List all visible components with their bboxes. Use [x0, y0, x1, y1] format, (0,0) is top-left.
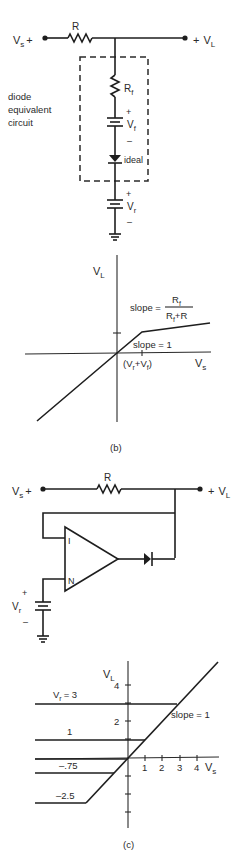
vr-1-label: 1	[67, 726, 72, 737]
y-axis-label: VL	[93, 265, 105, 280]
slope-lower-label: slope = 1	[133, 339, 172, 350]
resistor-rf-icon	[111, 75, 119, 97]
circuit-b: Vs+ R +VL diode equivalent circuit Rf + …	[8, 21, 216, 240]
vr-plus: +	[126, 189, 131, 199]
resistor-r-icon	[68, 34, 92, 42]
feedback-wire	[43, 513, 175, 538]
vr-plus: +	[22, 588, 27, 598]
vr-label: Vr	[12, 601, 22, 615]
vf-label: Vf	[127, 119, 137, 133]
resistor-r-label: R	[104, 472, 111, 483]
box-caption-line2: equivalent	[8, 104, 52, 115]
rf-label: Rf	[124, 83, 134, 97]
resistor-r-label: R	[72, 21, 79, 32]
vr-label: Vr	[127, 201, 137, 215]
transfer-curve-b	[37, 323, 210, 421]
vs-label: Vs+	[13, 34, 33, 49]
box-caption-line3: circuit	[8, 117, 33, 128]
opamp-noninverting-label: N	[68, 576, 75, 586]
x-tick-label-2: 2	[159, 762, 164, 773]
vl-label: +VL	[193, 34, 216, 49]
x-tick-label-3: 3	[177, 762, 182, 773]
graph-b: VL slope = Rf Rf+R slope = 1 (Vr+Vf) Vs …	[25, 255, 211, 453]
diagram-canvas: Vs+ R +VL diode equivalent circuit Rf + …	[0, 0, 244, 856]
y-tick-label-4: 4	[114, 680, 119, 691]
output-terminal-dot	[197, 486, 202, 491]
slope-label: slope = 1	[171, 709, 210, 720]
circuit-c: Vs+ R +VL I N + Vr –	[12, 472, 231, 642]
vr-neg-075-label: –.75	[59, 760, 78, 771]
y-tick-label-2: 2	[114, 716, 119, 727]
ideal-diode-icon	[109, 155, 121, 162]
vf-plus: +	[126, 107, 131, 117]
x-axis-label: Vs	[195, 357, 206, 372]
vr-neg-25-label: –2.5	[56, 790, 75, 801]
ground-icon	[109, 234, 121, 240]
slope-one-line	[86, 662, 218, 803]
caption-b: (b)	[110, 442, 122, 453]
vr-minus: –	[127, 217, 132, 227]
output-terminal-dot	[182, 35, 187, 40]
caption-c: (c)	[123, 839, 134, 850]
ground-icon	[37, 636, 49, 642]
vl-label: +VL	[208, 485, 231, 500]
slope-upper-prefix: slope =	[130, 302, 161, 313]
graph-c: VL 4 2 1 2 3 4 Vs Vr= 3 1 –.75 –2.5 slop…	[35, 661, 219, 850]
vr-minus: –	[23, 617, 28, 627]
breakpoint-label: (Vr+Vf)	[123, 358, 152, 371]
diode-icon	[144, 553, 151, 565]
opamp-inverting-label: I	[68, 536, 71, 546]
ideal-diode-label: ideal	[124, 155, 143, 165]
x-tick-label-1: 1	[142, 762, 147, 773]
slope-numerator: Rf	[172, 294, 181, 307]
vs-label: Vs+	[12, 485, 32, 500]
resistor-r-icon	[97, 485, 121, 493]
x-tick-label-4: 4	[194, 762, 199, 773]
box-caption-line1: diode	[8, 91, 31, 102]
vr-3-label: Vr= 3	[53, 689, 77, 702]
slope-denominator: Rf+R	[166, 310, 187, 323]
wire	[43, 579, 65, 602]
x-axis-label: Vs	[205, 761, 216, 776]
vf-minus: –	[127, 136, 132, 146]
